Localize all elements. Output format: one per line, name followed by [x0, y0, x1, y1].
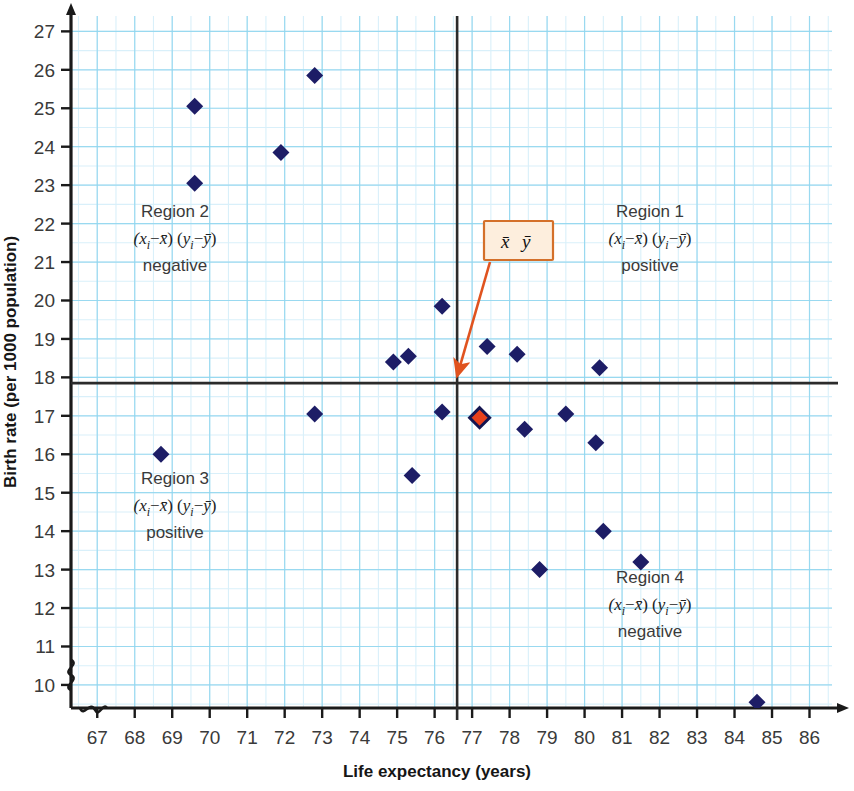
- region-2-sign: negative: [143, 256, 207, 275]
- data-markers: [152, 67, 765, 711]
- region-4-annotation: Region 4 (xi−x̄) (yi−ȳ) negative: [609, 568, 692, 641]
- region-4-sign: negative: [618, 622, 682, 641]
- data-point: [385, 354, 402, 371]
- y-tick-label: 20: [34, 290, 55, 311]
- y-bar-glyph: ȳ: [520, 231, 531, 252]
- data-point: [186, 175, 203, 192]
- region-4-title: Region 4: [616, 568, 684, 587]
- region-1-title: Region 1: [616, 202, 684, 221]
- x-tick-label: 67: [87, 727, 108, 748]
- y-tick-label: 15: [34, 483, 55, 504]
- mean-callout-x-symbol: x̄: [500, 231, 510, 252]
- region-1-formula: (xi−x̄) (yi−ȳ): [609, 229, 692, 252]
- x-tick-label: 80: [574, 727, 595, 748]
- data-point: [152, 446, 169, 463]
- data-point: [587, 434, 604, 451]
- x-tick-label: 68: [124, 727, 145, 748]
- x-tick-label: 74: [349, 727, 371, 748]
- y-tick-label: 27: [34, 21, 55, 42]
- x-axis-title: Life expectancy (years): [343, 762, 531, 781]
- y-tick-label: 13: [34, 560, 55, 581]
- x-tick-label: 77: [462, 727, 483, 748]
- y-tick-label: 23: [34, 175, 55, 196]
- x-axis-ticks: 6768697071727374757677787980818283848586: [87, 708, 820, 748]
- region-1-annotation: Region 1 (xi−x̄) (yi−ȳ) positive: [609, 202, 692, 275]
- data-point: [531, 561, 548, 578]
- y-tick-label: 21: [34, 252, 55, 273]
- x-tick-label: 72: [274, 727, 295, 748]
- data-point: [595, 523, 612, 540]
- data-point: [557, 405, 574, 422]
- scatter-plot-figure: 6768697071727374757677787980818283848586…: [0, 0, 854, 791]
- x-tick-label: 82: [649, 727, 670, 748]
- data-point: [591, 359, 608, 376]
- region-4-formula: (xi−x̄) (yi−ȳ): [609, 595, 692, 618]
- x-tick-label: 71: [237, 727, 258, 748]
- y-tick-label: 11: [35, 636, 55, 657]
- mean-callout-box: [484, 221, 553, 260]
- x-bar-glyph: x̄: [500, 231, 510, 252]
- x-tick-label: 75: [387, 727, 408, 748]
- y-tick-label: 12: [34, 598, 55, 619]
- x-tick-label: 83: [686, 727, 707, 748]
- grid-major: [71, 16, 832, 708]
- data-point: [400, 348, 417, 365]
- x-tick-label: 81: [611, 727, 632, 748]
- region-3-sign: positive: [146, 523, 204, 542]
- mean-callout: x̄ ȳ: [484, 221, 553, 260]
- data-point: [306, 405, 323, 422]
- x-tick-label: 69: [162, 727, 183, 748]
- data-point: [509, 346, 526, 363]
- region-2-annotation: Region 2 (xi−x̄) (yi−ȳ) negative: [134, 202, 217, 275]
- y-axis-ticks: 101112131415161718192021222324252627: [34, 21, 71, 696]
- grid-minor: [71, 16, 832, 708]
- x-tick-label: 79: [537, 727, 558, 748]
- mean-callout-y-symbol: ȳ: [520, 231, 531, 252]
- y-tick-label: 22: [34, 214, 55, 235]
- y-axis-title: Birth rate (per 1000 population): [1, 236, 20, 488]
- y-tick-label: 19: [34, 329, 55, 350]
- y-tick-label: 10: [34, 675, 55, 696]
- y-tick-label: 16: [34, 444, 55, 465]
- mean-lines: [71, 16, 838, 720]
- plot-canvas: 6768697071727374757677787980818283848586…: [0, 0, 854, 791]
- y-tick-label: 17: [34, 406, 55, 427]
- x-tick-label: 84: [724, 727, 746, 748]
- y-tick-label: 26: [34, 60, 55, 81]
- region-3-formula: (xi−x̄) (yi−ȳ): [134, 496, 217, 519]
- x-tick-label: 85: [761, 727, 782, 748]
- region-1-sign: positive: [621, 256, 679, 275]
- data-point: [186, 98, 203, 115]
- region-2-formula: (xi−x̄) (yi−ȳ): [134, 229, 217, 252]
- x-tick-label: 78: [499, 727, 520, 748]
- data-point: [479, 338, 496, 355]
- region-2-title: Region 2: [141, 202, 209, 221]
- data-point: [404, 467, 421, 484]
- y-tick-label: 24: [34, 137, 56, 158]
- y-tick-label: 18: [34, 367, 55, 388]
- x-tick-label: 73: [312, 727, 333, 748]
- data-point: [434, 403, 451, 420]
- y-tick-label: 25: [34, 98, 55, 119]
- x-tick-label: 86: [799, 727, 820, 748]
- region-3-title: Region 3: [141, 469, 209, 488]
- x-tick-label: 70: [199, 727, 220, 748]
- x-tick-label: 76: [424, 727, 445, 748]
- y-tick-label: 14: [34, 521, 56, 542]
